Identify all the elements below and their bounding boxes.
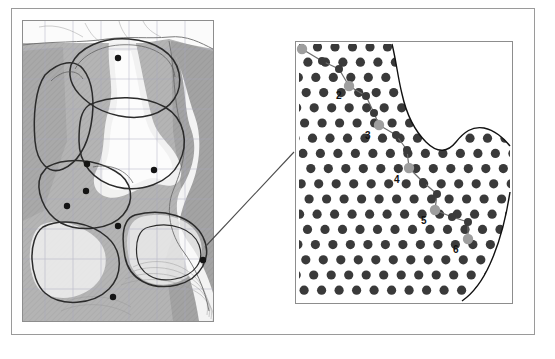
lattice-dot — [432, 270, 441, 279]
lattice-dot — [335, 118, 344, 127]
lattice-dot — [363, 240, 372, 249]
lattice-dot — [335, 286, 344, 295]
lattice-dot — [370, 286, 379, 295]
lattice-dot — [325, 134, 334, 143]
lattice-dot — [303, 58, 312, 67]
lattice-dot — [388, 118, 397, 127]
lattice-dot — [362, 270, 371, 279]
lattice-dot — [343, 134, 352, 143]
lattice-dot — [341, 164, 350, 173]
sampling-lattice-graphic — [296, 42, 512, 303]
highlighted-node — [374, 120, 384, 130]
lattice-dot — [456, 149, 465, 158]
regional-map-graphic — [23, 21, 213, 321]
lattice-dot — [480, 194, 489, 203]
figure-canvas: 123456 — [0, 0, 555, 359]
lattice-dot — [355, 225, 364, 234]
lattice-dot — [433, 240, 442, 249]
node-label-5: 5 — [421, 216, 427, 226]
highlighted-node — [430, 205, 440, 215]
lattice-dot — [446, 164, 455, 173]
lattice-dot — [319, 88, 328, 97]
map-station-marker — [84, 161, 90, 167]
map-station-marker — [151, 167, 157, 173]
lattice-dot — [318, 118, 327, 127]
lattice-dot — [499, 164, 508, 173]
lattice-dot — [353, 118, 362, 127]
lattice-dot — [449, 270, 458, 279]
lattice-dot — [324, 164, 333, 173]
path-node — [318, 57, 326, 65]
lattice-dot — [344, 270, 353, 279]
lattice-dot — [311, 240, 320, 249]
lattice-dot — [314, 179, 323, 188]
lattice-dot — [330, 210, 339, 219]
sampling-lattice-panel: 123456 — [295, 41, 513, 304]
lattice-dot — [298, 149, 307, 158]
lattice-dot — [483, 134, 492, 143]
lattice-dot — [340, 194, 349, 203]
highlighted-node — [297, 44, 307, 54]
lattice-dot — [429, 164, 438, 173]
lattice-dot — [489, 179, 498, 188]
lattice-dot — [491, 149, 500, 158]
lattice-dot — [437, 179, 446, 188]
lattice-dot — [406, 255, 415, 264]
lattice-dot — [472, 179, 481, 188]
lattice-dot — [486, 240, 495, 249]
lattice-dot — [481, 164, 490, 173]
lattice-dot — [359, 164, 368, 173]
lattice-dot — [376, 164, 385, 173]
lattice-dot — [384, 179, 393, 188]
lattice-dot — [346, 73, 355, 82]
highlighted-node — [344, 81, 354, 91]
path-node — [448, 213, 456, 221]
map-station-marker — [64, 203, 70, 209]
lattice-dot — [476, 255, 485, 264]
lattice-dot — [317, 286, 326, 295]
lattice-dot — [373, 58, 382, 67]
lattice-dot — [387, 286, 396, 295]
node-label-2: 2 — [336, 91, 342, 101]
lattice-dot — [333, 149, 342, 158]
lattice-dot — [424, 255, 433, 264]
lattice-dot — [454, 179, 463, 188]
lattice-dot — [381, 240, 390, 249]
lattice-dot — [379, 270, 388, 279]
lattice-dot — [328, 240, 337, 249]
lattice-dot — [319, 255, 328, 264]
lattice-dot — [372, 88, 381, 97]
lattice-dot — [368, 149, 377, 158]
lattice-dot — [398, 240, 407, 249]
lattice-dot — [488, 210, 497, 219]
lattice-dot — [345, 103, 354, 112]
lattice-dot — [311, 73, 320, 82]
lattice-dot — [367, 179, 376, 188]
lattice-dot — [320, 225, 329, 234]
lattice-dot — [351, 149, 360, 158]
lattice-dot — [443, 225, 452, 234]
lattice-dot — [349, 179, 358, 188]
lattice-dot — [308, 134, 317, 143]
lattice-dot — [301, 255, 310, 264]
path-node — [362, 92, 370, 100]
lattice-dot — [405, 286, 414, 295]
lattice-dot — [310, 103, 319, 112]
node-label-3: 3 — [365, 131, 371, 141]
lattice-dot — [364, 73, 373, 82]
lattice-dot — [375, 194, 384, 203]
lattice-dot — [464, 164, 473, 173]
lattice-dot — [378, 134, 387, 143]
node-label-4: 4 — [394, 175, 400, 185]
lattice-dot — [357, 194, 366, 203]
lattice-dot — [392, 194, 401, 203]
lattice-dot — [459, 255, 468, 264]
node-label-1: 1 — [295, 44, 296, 54]
lattice-dot — [302, 88, 311, 97]
lattice-dot — [389, 255, 398, 264]
path-node — [464, 218, 472, 226]
lattice-dot — [497, 194, 506, 203]
lattice-dot — [478, 225, 487, 234]
lattice-dot — [300, 118, 309, 127]
map-station-marker — [83, 188, 89, 194]
